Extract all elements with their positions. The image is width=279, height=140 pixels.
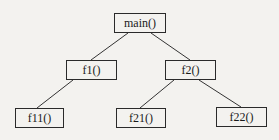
node-f11: f11() — [15, 108, 64, 128]
node-f1: f1() — [66, 60, 117, 80]
edge-main-f1 — [91, 33, 128, 60]
edge-f2-f21 — [140, 80, 174, 108]
node-f21: f21() — [116, 108, 166, 128]
node-f22: f22() — [216, 107, 267, 127]
edge-f1-f11 — [37, 80, 73, 108]
edge-f2-f22 — [199, 80, 241, 107]
edge-main-f2 — [151, 33, 190, 60]
node-main: main() — [114, 13, 166, 33]
node-f2: f2() — [165, 60, 216, 80]
